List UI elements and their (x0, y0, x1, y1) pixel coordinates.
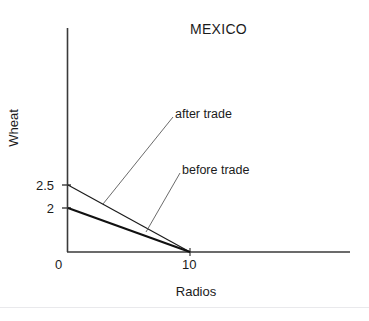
bottom-divider (0, 307, 369, 308)
x-axis-label: Radios (176, 285, 216, 298)
leader-line-after-trade (103, 117, 173, 204)
series-line-before-trade (68, 208, 190, 252)
annotation-before-trade: before trade (182, 164, 249, 177)
chart-canvas: MEXICO Wheat Radios 2.5 2 0 10 after tra… (0, 0, 369, 321)
y-axis-tick-label-2point5: 2.5 (26, 179, 54, 192)
x-axis-tick-label-10: 10 (182, 258, 196, 271)
y-axis-tick-label-2: 2 (26, 202, 54, 215)
x-axis-tick-label-0: 0 (55, 258, 62, 271)
series-line-after-trade (68, 185, 190, 252)
chart-plot-area (0, 0, 369, 321)
y-axis-label: Wheat (7, 109, 20, 147)
chart-title: MEXICO (190, 22, 247, 36)
leader-line-before-trade (146, 173, 180, 232)
annotation-after-trade: after trade (175, 108, 232, 121)
